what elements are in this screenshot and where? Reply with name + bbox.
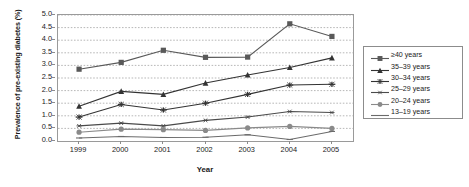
x-tick-label: 2004 (269, 146, 309, 153)
legend: ≥40 years35–39 years30–34 years25–29 yea… (363, 46, 463, 119)
x-tick-label: 2000 (100, 146, 140, 153)
legend-item-label: 13–19 years (391, 109, 430, 116)
x-tick-mark (247, 141, 248, 144)
legend-item: 30–34 years (364, 73, 462, 84)
x-tick-label: 2003 (227, 146, 267, 153)
legend-marker-icon (369, 84, 391, 95)
legend-marker-icon (369, 50, 391, 61)
x-axis-title: Year (55, 165, 355, 174)
x-tick-mark (78, 141, 79, 144)
legend-item: 13–19 years (364, 107, 462, 118)
x-tick-mark (162, 141, 163, 144)
x-tick-label: 2005 (311, 146, 351, 153)
x-tick-label: 2001 (142, 146, 182, 153)
x-tick-label: 2002 (185, 146, 225, 153)
legend-item: 35–39 years (364, 61, 462, 72)
legend-marker-icon (369, 96, 391, 107)
legend-item-label: 20–24 years (391, 98, 430, 105)
data-point-marker (378, 56, 383, 61)
legend-marker-icon (369, 107, 391, 118)
legend-item: 25–29 years (364, 84, 462, 95)
x-tick-mark (120, 141, 121, 144)
x-tick-mark (289, 141, 290, 144)
legend-item-label: ≥40 years (391, 52, 422, 59)
legend-item: ≥40 years (364, 50, 462, 61)
legend-item-label: 25–29 years (391, 86, 430, 93)
chart-figure: Prevalence of pre-existing diabetes (%) … (0, 0, 469, 187)
legend-item: 20–24 years (364, 96, 462, 107)
legend-marker-icon (369, 73, 391, 84)
legend-marker-icon (369, 62, 391, 73)
x-tick-mark (331, 141, 332, 144)
legend-item-label: 35–39 years (391, 64, 430, 71)
legend-item-label: 30–34 years (391, 75, 430, 82)
x-tick-mark (205, 141, 206, 144)
data-point-marker (378, 102, 383, 107)
x-tick-label: 1999 (58, 146, 98, 153)
